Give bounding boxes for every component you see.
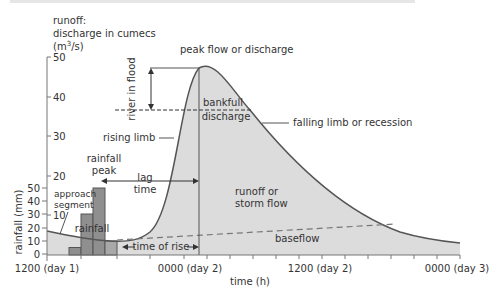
rainfall-axis-title: rainfall (mm) — [13, 189, 24, 254]
bankfull-label-1: bankfull — [203, 97, 243, 108]
x-axis-title: time (h) — [230, 276, 270, 287]
rainfall-peak-label-2: peak — [92, 165, 117, 176]
discharge-tick-10: 10 — [53, 210, 66, 221]
y-axis-title-line2: discharge in cumecs — [53, 28, 156, 39]
river-in-flood-label: river in flood — [126, 57, 137, 120]
y-axis-title-line1: runoff: — [53, 15, 86, 26]
rising-limb-label: rising limb — [103, 132, 155, 143]
discharge-tick-50: 50 — [53, 52, 66, 63]
rainfall-bar-4 — [105, 241, 117, 255]
rainfall-tick-20: 20 — [27, 223, 40, 234]
rainfall-tick-50: 50 — [27, 183, 40, 194]
discharge-tick-30: 30 — [53, 131, 66, 142]
discharge-ticks — [47, 57, 51, 215]
x-ticks — [47, 255, 460, 261]
discharge-tick-40: 40 — [53, 92, 66, 103]
bankfull-label-2: discharge — [202, 111, 251, 122]
y-axis-title-line3: (m3/s) — [53, 40, 84, 52]
rainfall-bar-1 — [69, 248, 81, 256]
x-tick-0000-day3: 0000 (day 3) — [425, 263, 489, 274]
rainfall-bar-2 — [81, 214, 93, 255]
rainfall-peak-label-1: rainfall — [87, 153, 122, 164]
peak-label-1: peak flow or discharge — [180, 44, 294, 55]
discharge-tick-20: 20 — [53, 171, 66, 182]
hydrograph-chart: runoff: discharge in cumecs (m3/s) 50 40… — [0, 0, 500, 293]
flood-arrow-up-icon — [148, 68, 154, 74]
rainfall-ticks — [42, 188, 47, 254]
runoff-label-1: runoff or — [235, 186, 279, 197]
x-tick-1200-day1: 1200 (day 1) — [15, 263, 79, 274]
lag-arrow-left-icon — [101, 178, 107, 184]
rainfall-tick-40: 40 — [27, 196, 40, 207]
approach-label-2: segment — [54, 200, 94, 210]
falling-limb-label: falling limb or recession — [293, 117, 412, 128]
rainfall-label: rainfall — [75, 223, 110, 234]
approach-label-1: approach — [54, 189, 96, 199]
rainfall-tick-10: 10 — [27, 236, 40, 247]
baseflow-label: baseflow — [275, 233, 319, 244]
runoff-label-2: storm flow — [235, 198, 288, 209]
rainfall-tick-30: 30 — [27, 209, 40, 220]
x-tick-0000-day2: 0000 (day 2) — [158, 263, 222, 274]
x-tick-1200-day2: 1200 (day 2) — [288, 263, 352, 274]
rainfall-tick-0: 0 — [34, 249, 40, 260]
flood-arrow-down-icon — [148, 104, 154, 110]
time-of-rise-label: time of rise — [133, 241, 190, 252]
